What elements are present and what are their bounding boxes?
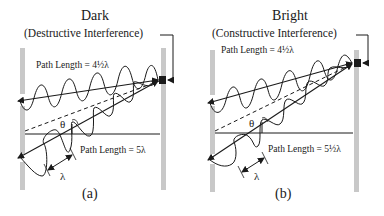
panel-b-caption: (b) (275, 186, 291, 202)
ray-top (208, 63, 352, 103)
panel-a-path-bottom-label: Path Length = 5λ (80, 145, 146, 155)
wave-bottom (20, 81, 158, 176)
wavelength-marker (48, 155, 72, 170)
panel-b (208, 35, 368, 192)
detector-point (354, 59, 361, 67)
panel-a-caption: (a) (82, 186, 98, 202)
panel-b-angle-label: θ (249, 117, 254, 129)
wave-top (20, 65, 158, 110)
dashed-center-line (215, 64, 352, 131)
panel-a-title: Dark (60, 8, 130, 24)
panel-a-angle-label: θ (60, 118, 65, 130)
panel-b-subtitle: (Constructive Interference) (212, 27, 337, 39)
panel-a-path-top-label: Path Length = 4½λ (36, 60, 109, 70)
slit-barrier (210, 50, 215, 192)
screen (354, 50, 359, 192)
panel-b-wavelength-label: λ (254, 170, 259, 182)
panel-b-path-top-label: Path Length = 4½λ (221, 45, 294, 55)
panel-a-wavelength-label: λ (60, 170, 65, 182)
detector-point (159, 76, 166, 84)
panel-b-path-bottom-label: Path Length = 5½λ (268, 144, 341, 154)
panel-a (18, 35, 173, 190)
screen (161, 48, 166, 190)
ray-top (18, 80, 158, 101)
wavelength-marker (242, 158, 264, 172)
slit-barrier (20, 48, 25, 190)
wave-top (210, 55, 352, 112)
panel-a-subtitle: (Destructive Interference) (24, 27, 143, 39)
panel-b-title: Bright (250, 8, 330, 24)
